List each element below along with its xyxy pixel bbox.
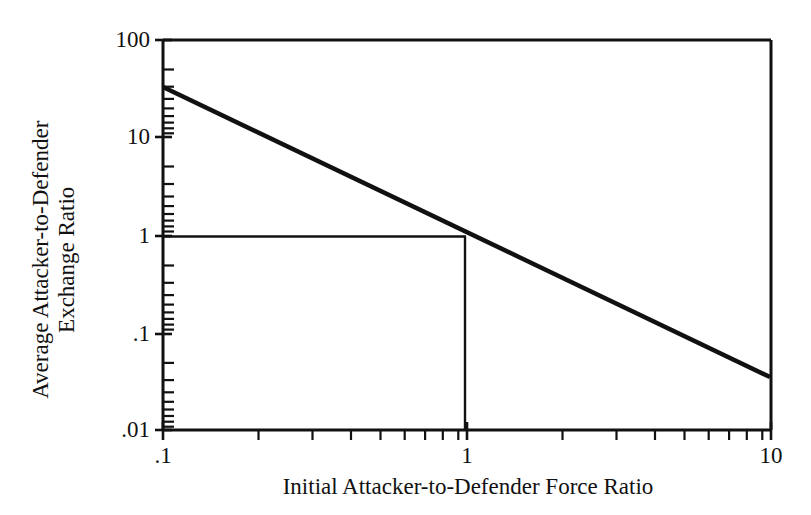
y-tick-label-0.01: .01: [70, 418, 150, 441]
y-axis-title: Average Attacker-to-Defender Exchange Ra…: [28, 60, 80, 460]
x-tick-label-10: 10: [751, 444, 791, 467]
y-tick-label-10: 10: [70, 125, 150, 148]
figure-container: 100 10 1 .1 .01 .1 1 10 Initial Attacker…: [0, 0, 811, 515]
x-axis-title: Initial Attacker-to-Defender Force Ratio: [163, 474, 773, 500]
reference-lines: [163, 237, 466, 431]
y-axis-title-line-1: Average Attacker-to-Defender: [28, 60, 54, 460]
y-axis-minor-ticks: [163, 70, 174, 427]
x-tick-label-0.1: .1: [143, 444, 183, 467]
y-tick-label-100: 100: [70, 28, 150, 51]
data-series-exchange-ratio: [163, 87, 770, 377]
x-tick-label-1: 1: [447, 444, 487, 467]
y-tick-label-1: 1: [70, 224, 150, 247]
y-axis-title-line-2: Exchange Ratio: [54, 60, 80, 460]
y-tick-label-0.1: .1: [70, 322, 150, 345]
plot-frame: [163, 40, 771, 430]
